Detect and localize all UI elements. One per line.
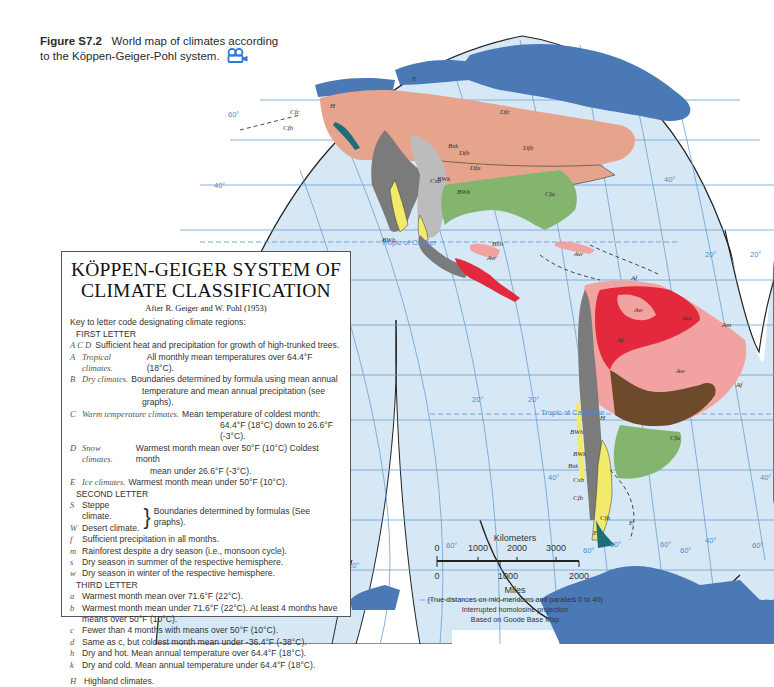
- svg-text:Af: Af: [630, 274, 638, 282]
- legend-subtitle: After R. Geiger and W. Pohl (1953): [70, 303, 342, 314]
- svg-text:BSh: BSh: [492, 240, 504, 248]
- svg-text:20°: 20°: [528, 395, 539, 404]
- svg-text:Csb: Csb: [573, 476, 584, 484]
- map-scale: Kilometers 0 1000 2000 3000 0 1000 2000 …: [420, 533, 610, 625]
- scale-km-ticks: 0 1000 2000 3000: [420, 543, 610, 555]
- svg-text:BWk: BWk: [573, 450, 587, 458]
- svg-text:60°: 60°: [680, 546, 691, 555]
- svg-text:Aw: Aw: [633, 306, 643, 314]
- lat-label-60: 60°: [228, 110, 239, 119]
- legend-title: KÖPPEN-GEIGER SYSTEM OF CLIMATE CLASSIFI…: [70, 259, 342, 301]
- climate-classification-legend: KÖPPEN-GEIGER SYSTEM OF CLIMATE CLASSIFI…: [61, 251, 351, 617]
- svg-text:Af: Af: [735, 381, 743, 389]
- lat-label-40: 40°: [214, 181, 225, 190]
- svg-text:Dfa: Dfa: [469, 164, 481, 172]
- svg-text:60°: 60°: [752, 541, 763, 550]
- svg-text:Cfb: Cfb: [573, 494, 584, 502]
- svg-text:Aw: Aw: [675, 367, 685, 375]
- legend-item-d: DSnow climates.Warmest month mean over 5…: [70, 443, 342, 466]
- svg-text:H: H: [329, 102, 336, 110]
- legend-item-b-lower: bWarmest month mean under 71.6°F (22°C).…: [70, 603, 342, 614]
- scale-mi-ticks: 0 1000 2000: [420, 571, 610, 583]
- legend-item-c: CWarm temperature climates.Mean temperat…: [70, 409, 342, 420]
- legend-intro: Key to letter code designating climate r…: [70, 317, 342, 328]
- second-letter-heading: SECOND LETTER: [76, 489, 342, 500]
- brace-icon: }: [144, 507, 151, 527]
- svg-text:Cfa: Cfa: [545, 190, 556, 198]
- legend-item-m: mRainforest despite a dry season (i.e., …: [70, 546, 342, 557]
- svg-text:Am: Am: [681, 314, 691, 322]
- svg-text:Cfc: Cfc: [290, 108, 301, 116]
- svg-text:40°: 40°: [705, 536, 716, 545]
- svg-text:20°: 20°: [705, 250, 716, 259]
- svg-text:BWk: BWk: [457, 188, 471, 196]
- svg-text:BWh: BWh: [570, 428, 584, 436]
- svg-text:BWh: BWh: [382, 236, 396, 244]
- svg-text:Cfb: Cfb: [283, 124, 294, 132]
- svg-text:80°: 80°: [610, 540, 621, 549]
- svg-text:Dfb: Dfb: [458, 149, 470, 157]
- svg-text:Cfa: Cfa: [670, 434, 681, 442]
- legend-item-h-lower: hDry and hot. Mean annual temperature ov…: [70, 648, 342, 659]
- legend-item-s: sDry season in summer of the respective …: [70, 557, 342, 568]
- tropic-of-capricorn-label: Tropic of Capricorn: [541, 408, 605, 417]
- legend-item-d-lower: dSame as c, but coldest month mean under…: [70, 637, 342, 648]
- scale-note-distances: (True distances on mid-meridians and par…: [420, 595, 610, 605]
- scale-km-label: Kilometers: [420, 533, 610, 543]
- scale-bar: [420, 555, 610, 569]
- svg-text:Cfb: Cfb: [600, 514, 611, 522]
- legend-item-w: wDry season in winter of the respective …: [70, 568, 342, 579]
- svg-text:Aw: Aw: [486, 254, 496, 262]
- svg-text:E: E: [628, 519, 634, 527]
- scale-note-basemap: Based on Goode Base Map: [420, 615, 610, 625]
- legend-item-k-lower: kDry and cold. Mean annual temperature u…: [70, 660, 342, 671]
- svg-text:E: E: [411, 75, 417, 83]
- svg-text:40°: 40°: [664, 175, 675, 184]
- legend-item-highland: HHighland climates.: [70, 676, 342, 687]
- svg-text:40°: 40°: [548, 473, 559, 482]
- svg-text:Bsk: Bsk: [568, 462, 579, 470]
- svg-text:Aw: Aw: [573, 250, 583, 258]
- svg-text:20°: 20°: [472, 395, 483, 404]
- svg-text:Dfb: Dfb: [522, 144, 534, 152]
- legend-item-c-lower: cFewer than 4 months with means over 50°…: [70, 625, 342, 636]
- svg-text:Am: Am: [721, 321, 731, 329]
- svg-text:Bsk: Bsk: [448, 142, 459, 150]
- legend-item-a: ATropical climates.All monthly mean temp…: [70, 352, 342, 375]
- legend-item-acd: A C DSufficient heat and precipitation f…: [70, 340, 342, 351]
- legend-item-s-w: SSteppe climate. WDesert climate. } Boun…: [70, 500, 342, 534]
- svg-text:20°: 20°: [750, 250, 761, 259]
- legend-item-b: BDry climates.Boundaries determined by f…: [70, 374, 342, 385]
- first-letter-heading: FIRST LETTER: [76, 329, 342, 340]
- svg-text:H: H: [599, 414, 606, 422]
- svg-text:Dfc: Dfc: [499, 108, 511, 116]
- third-letter-heading: THIRD LETTER: [76, 580, 342, 591]
- scale-note-projection: Interrupted homolosine projection: [420, 605, 610, 615]
- svg-text:Af: Af: [616, 336, 624, 344]
- svg-text:60°: 60°: [660, 540, 671, 549]
- svg-text:40°: 40°: [760, 473, 771, 482]
- scale-mi-label: Miles: [420, 585, 610, 595]
- svg-text:Csb: Csb: [430, 177, 441, 185]
- legend-item-f: fSufficient precipitation in all months.: [70, 534, 342, 545]
- legend-item-a-lower: aWarmest month mean over 71.6°F (22°C).: [70, 591, 342, 602]
- legend-item-e: EIce climates.Warmest month mean under 5…: [70, 477, 342, 488]
